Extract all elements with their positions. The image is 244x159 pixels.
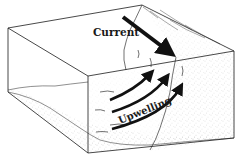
upwelling-diagram: Current Upwelling bbox=[0, 0, 244, 159]
slope-top-surface bbox=[142, 5, 234, 57]
current-label: Current bbox=[93, 26, 139, 38]
